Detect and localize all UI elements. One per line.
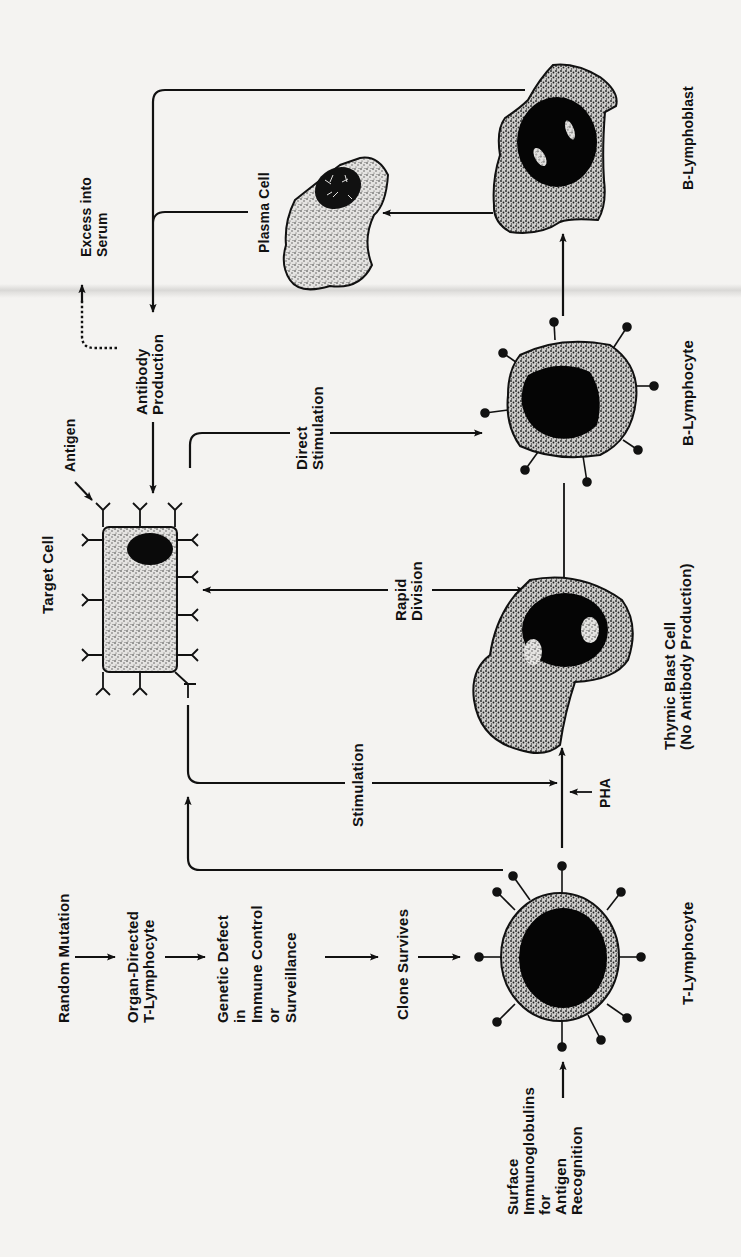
label-direct-stimulation: Direct Stimulation — [294, 386, 326, 470]
label-genetic-defect: Genetic Defect in Immune Control or Surv… — [214, 905, 299, 1023]
label-t-lymphocyte: T-Lymphocyte — [680, 901, 696, 1005]
label-b-lymphocyte: B-Lymphocyte — [680, 340, 696, 446]
target-nucleus — [127, 533, 173, 565]
plasma-cell — [284, 158, 388, 290]
label-clone-survives: Clone Survives — [395, 909, 411, 1020]
label-organ-directed-t-lymphocyte: Organ-Directed T-Lymphocyte — [125, 911, 157, 1023]
diagram-canvas — [0, 0, 741, 1257]
arrow-excess-into-serum — [82, 300, 117, 348]
line-plasma-to-antibody — [153, 212, 248, 224]
b-lymphocyte-cell — [481, 318, 658, 486]
label-excess-into-serum: Excess into Serum — [78, 177, 110, 257]
label-random-mutation: Random Mutation — [56, 893, 72, 1023]
t-lymphocyte-cell — [475, 862, 645, 1051]
arrow-tcell-to-target — [188, 797, 503, 870]
target-cell — [82, 503, 198, 698]
label-target-cell: Target Cell — [40, 535, 56, 614]
label-antibody-production: Antibody Production — [134, 334, 166, 415]
label-plasma-cell: Plasma Cell — [256, 172, 272, 253]
label-thymic-blast-cell: Thymic Blast Cell (No Antibody Productio… — [662, 563, 694, 750]
label-antigen: Antigen — [62, 418, 78, 472]
antigen-pointer — [75, 482, 92, 500]
arrow-direct-stimulation — [190, 433, 482, 468]
diagram-page: Random Mutation Organ-Directed T-Lymphoc… — [0, 0, 741, 1257]
label-b-lymphoblast: B-Lymphoblast — [680, 86, 696, 190]
thymic-blast-cell — [473, 578, 632, 754]
label-rapid-division: Rapid Division — [393, 561, 425, 621]
label-pha: PHA — [597, 778, 613, 808]
label-surface-immunoglobulins: Surface Immunoglobulins for Antigen Reco… — [505, 1087, 585, 1215]
label-stimulation: Stimulation — [350, 743, 366, 827]
